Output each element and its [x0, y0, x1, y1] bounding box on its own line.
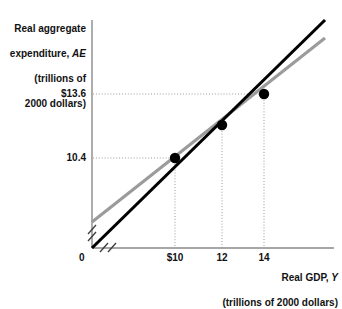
y-axis-title-symbol: AE — [72, 48, 86, 59]
x-tick-label-14: 14 — [244, 252, 284, 263]
y-axis-title-line2: expenditure, — [10, 48, 72, 59]
y-tick-label-13-6: $13.6 — [26, 88, 86, 99]
series-line-aggregate-expenditure — [92, 38, 325, 222]
x-axis-title-symbol: Y — [331, 272, 338, 283]
origin-label: 0 — [79, 252, 85, 263]
y-axis-title-line4: 2000 dollars) — [25, 98, 86, 109]
x-tick-label-10: $10 — [155, 252, 195, 263]
series-line-45-degree — [92, 20, 325, 248]
y-axis-title-line3: (trillions of — [34, 73, 86, 84]
x-axis-title: Real GDP, Y (trillions of 2000 dollars) — [88, 259, 338, 309]
x-axis-title-line2: (trillions of 2000 dollars) — [222, 297, 338, 308]
x-tick-label-12: 12 — [202, 252, 242, 263]
x-axis-title-line1: Real GDP, — [281, 272, 331, 283]
y-axis-title-line1: Real aggregate — [14, 23, 86, 34]
data-point-3 — [259, 89, 269, 99]
data-point-2 — [217, 120, 227, 130]
data-point-1 — [170, 153, 180, 163]
y-tick-label-10-4: 10.4 — [26, 152, 86, 163]
